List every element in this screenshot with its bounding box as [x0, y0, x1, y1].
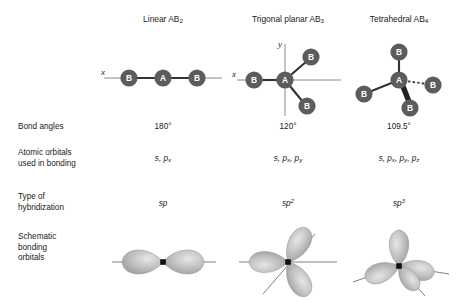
lobe-top: [389, 230, 409, 266]
row-label-atomic-orbitals: Atomic orbitals used in bonding: [18, 148, 76, 169]
axis-label-y: y: [277, 39, 282, 49]
svg-text:A: A: [396, 75, 402, 85]
atom-terminal-left: B: [120, 69, 137, 86]
nucleus-marker: [285, 259, 291, 265]
orbital-text: s, p: [155, 154, 168, 163]
nucleus-marker: [396, 263, 402, 269]
svg-text:B: B: [126, 73, 132, 83]
heading-text: Linear AB: [143, 14, 179, 24]
atom-terminal-top: B: [390, 43, 407, 60]
heading-subscript: 4: [425, 17, 428, 24]
heading-subscript: 3: [321, 17, 324, 24]
geometry-diagram-linear: x B A B: [98, 52, 228, 104]
heading-text: Trigonal planar AB: [252, 14, 321, 24]
axis-label-x: x: [100, 67, 105, 77]
row-label-bond-angles: Bond angles: [18, 122, 64, 133]
hybridization-superscript: 3: [402, 197, 405, 204]
hybridization-trigonal-planar: sp2: [282, 196, 294, 209]
geometry-diagram-trigonal-planar: y x B B B A: [223, 36, 353, 118]
bond-angle-trigonal-planar: 120°: [280, 122, 297, 133]
svg-text:B: B: [407, 103, 413, 113]
orbital-text: s, p: [274, 154, 287, 163]
column-heading-tetrahedral: Tetrahedral AB4: [370, 14, 428, 27]
svg-text:B: B: [430, 80, 436, 90]
hybridization-linear: sp: [159, 196, 168, 209]
atom-central: A: [154, 69, 171, 86]
lobe-left: [122, 250, 163, 274]
svg-text:B: B: [308, 52, 314, 62]
orbital-diagram-sp2: [223, 228, 353, 298]
column-heading-trigonal-planar: Trigonal planar AB3: [252, 14, 324, 27]
hybridization-text: sp: [393, 199, 402, 208]
lobe-right: [163, 250, 204, 274]
atom-terminal-bottom: B: [401, 99, 418, 116]
atomic-orbitals-linear: s, px: [155, 154, 171, 166]
atom-terminal-upper-right: B: [302, 48, 319, 65]
orbital-subscript-2: y: [299, 156, 302, 163]
hybridization-tetrahedral: sp3: [393, 196, 405, 209]
row-label-hybridization: Type of hybridization: [18, 192, 64, 213]
heading-subscript: 2: [179, 17, 182, 24]
orbital-subscript: x: [168, 156, 171, 163]
orbital-subscript-3: z: [416, 156, 419, 163]
bond-angle-tetrahedral: 109.5°: [387, 122, 411, 133]
atom-terminal-lower-right: B: [298, 97, 315, 114]
axis-label-x: x: [231, 69, 236, 79]
atom-terminal-left: B: [245, 71, 262, 88]
heading-text: Tetrahedral AB: [370, 14, 425, 24]
svg-text:A: A: [160, 73, 166, 83]
atom-terminal-left: B: [355, 85, 372, 102]
atom-central: A: [276, 71, 293, 88]
atomic-orbitals-tetrahedral: s, px, py, pz: [379, 154, 420, 166]
orbital-diagram-sp: [98, 228, 228, 298]
orbital-text-3: , p: [407, 154, 416, 163]
atom-terminal-right: B: [424, 76, 441, 93]
svg-text:B: B: [251, 75, 257, 85]
svg-text:B: B: [361, 89, 367, 99]
lobe-left: [249, 252, 288, 273]
hybridization-superscript: 2: [291, 197, 294, 204]
atomic-orbitals-trigonal-planar: s, px, py: [274, 154, 303, 166]
column-heading-linear: Linear AB2: [143, 14, 183, 27]
hybridization-text: sp: [282, 199, 291, 208]
atom-central: A: [390, 71, 407, 88]
row-label-schematic-orbitals: Schematic bonding orbitals: [18, 232, 56, 264]
hybridization-text: sp: [159, 199, 168, 208]
bond-angle-linear: 180°: [155, 122, 172, 133]
svg-text:A: A: [282, 75, 288, 85]
atom-terminal-right: B: [188, 69, 205, 86]
figure-canvas: Linear AB2 Trigonal planar AB3 Tetrahedr…: [0, 0, 456, 302]
svg-text:B: B: [304, 101, 310, 111]
geometry-diagram-tetrahedral: B B B B A: [339, 36, 456, 118]
orbital-text: s, p: [379, 154, 392, 163]
svg-text:B: B: [194, 73, 200, 83]
orbital-diagram-sp3: [339, 228, 456, 298]
svg-text:B: B: [396, 47, 402, 57]
nucleus-marker: [160, 259, 166, 265]
